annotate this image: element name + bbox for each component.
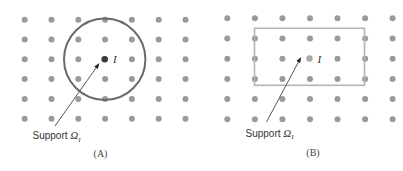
node-grid-b (224, 15, 395, 122)
grid-node (335, 56, 341, 62)
grid-node (279, 15, 285, 21)
grid-node (252, 15, 258, 21)
grid-node (129, 96, 135, 102)
grid-node (279, 36, 285, 42)
grid-node (183, 37, 189, 43)
grid-node (224, 36, 230, 42)
grid-node (362, 116, 368, 122)
grid-node (75, 116, 81, 122)
node-label-b: I (317, 53, 323, 65)
grid-node (279, 56, 285, 62)
panel-a: I Support ΩI (A) (22, 17, 189, 160)
grid-node (102, 96, 108, 102)
grid-node (102, 76, 108, 82)
grid-node (335, 15, 341, 21)
grid-node (49, 56, 55, 62)
center-node-b (306, 55, 312, 61)
grid-node (307, 116, 313, 122)
grid-node (75, 56, 81, 62)
grid-node (224, 76, 230, 82)
grid-node (102, 37, 108, 43)
grid-node (307, 15, 313, 21)
grid-node (307, 76, 313, 82)
grid-node (156, 56, 162, 62)
node-label-a: I (112, 53, 118, 65)
grid-node (224, 96, 230, 102)
grid-node (362, 96, 368, 102)
grid-node (75, 76, 81, 82)
grid-node (224, 116, 230, 122)
grid-node (335, 96, 341, 102)
grid-node (22, 37, 28, 43)
support-label-a: Support ΩI (33, 129, 82, 144)
grid-node (22, 17, 28, 23)
grid-node (183, 116, 189, 122)
grid-node (390, 76, 396, 82)
grid-node (102, 116, 108, 122)
grid-node (335, 76, 341, 82)
panel-b: I Support ΩI (B) (224, 15, 395, 159)
grid-node (129, 17, 135, 23)
support-arrow-b (267, 57, 302, 122)
grid-node (22, 116, 28, 122)
grid-node (75, 37, 81, 43)
grid-node (252, 96, 258, 102)
grid-node (183, 76, 189, 82)
support-label-b: Support ΩI (246, 127, 295, 142)
grid-node (183, 96, 189, 102)
grid-node (156, 96, 162, 102)
grid-node (156, 17, 162, 23)
grid-node (279, 116, 285, 122)
center-node-a (101, 56, 108, 63)
grid-node (102, 17, 108, 23)
grid-node (224, 15, 230, 21)
grid-node (49, 37, 55, 43)
grid-node (390, 56, 396, 62)
grid-node (49, 96, 55, 102)
grid-node (183, 17, 189, 23)
grid-node (390, 96, 396, 102)
grid-node (362, 15, 368, 21)
grid-node (75, 96, 81, 102)
grid-node (156, 37, 162, 43)
grid-node (390, 15, 396, 21)
grid-node (390, 116, 396, 122)
grid-node (49, 116, 55, 122)
grid-node (335, 116, 341, 122)
caption-b: (B) (306, 147, 319, 159)
grid-node (75, 17, 81, 23)
grid-node (307, 96, 313, 102)
grid-node (129, 116, 135, 122)
grid-node (49, 17, 55, 23)
grid-node (224, 56, 230, 62)
grid-node (22, 96, 28, 102)
grid-node (49, 76, 55, 82)
grid-node (129, 37, 135, 43)
grid-node (183, 56, 189, 62)
grid-node (279, 76, 285, 82)
grid-node (129, 56, 135, 62)
grid-node (22, 56, 28, 62)
grid-node (307, 36, 313, 42)
support-domain-figure: I Support ΩI (A) I Support ΩI (B) (0, 0, 403, 171)
grid-node (129, 76, 135, 82)
grid-node (156, 116, 162, 122)
caption-a: (A) (94, 148, 108, 160)
grid-node (335, 36, 341, 42)
grid-node (252, 116, 258, 122)
grid-node (156, 76, 162, 82)
node-grid-a (22, 17, 189, 122)
grid-node (390, 36, 396, 42)
grid-node (22, 76, 28, 82)
